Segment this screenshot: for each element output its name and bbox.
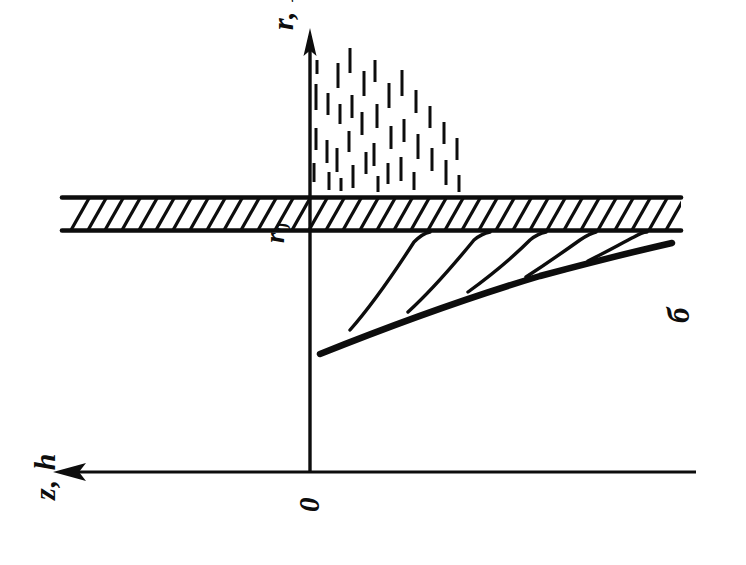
vertical-axis-label: r, R (268, 0, 298, 30)
horizontal-axis (53, 463, 696, 481)
origin-label: 0 (295, 498, 324, 513)
streamline-2 (408, 232, 490, 312)
figure-part-label: б (663, 308, 694, 323)
radius-marker-base: r (260, 232, 290, 243)
radius-marker-subscript: 0 (274, 223, 294, 232)
radius-marker-label: r0 (262, 223, 294, 243)
figure-container: r, R r0 z, h 0 б (0, 0, 746, 565)
main-envelope-curve (320, 243, 672, 354)
hatched-plate (62, 186, 708, 246)
spray-dashes (314, 48, 459, 192)
diagram-canvas (0, 0, 746, 565)
streamline-family (350, 232, 647, 330)
horizontal-axis-label: z, h (30, 453, 60, 500)
